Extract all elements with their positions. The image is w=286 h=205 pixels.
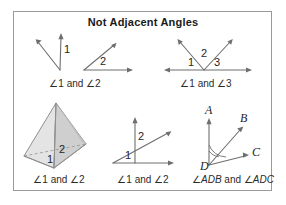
caption-top-right: ∠1 and ∠3 (158, 78, 254, 89)
arrowhead-A (206, 118, 211, 124)
angle-label-2: 2 (100, 55, 106, 67)
diagram-top-right: 1 2 3 (160, 33, 256, 77)
ray-1b (38, 42, 60, 70)
angle-label-2: 2 (201, 47, 207, 59)
angle-label-1: 1 (125, 149, 131, 161)
point-label-A: A (204, 103, 213, 117)
caption-adb: ADB (201, 174, 222, 185)
caption-bottom-right: ∠ADB and ∠ADC (186, 174, 280, 185)
point-label-C: C (252, 145, 261, 159)
angle-label-2: 2 (138, 130, 144, 142)
caption-bottom-left: ∠1 and ∠2 (14, 174, 104, 185)
caption-top-left: ∠1 and ∠2 (20, 78, 130, 89)
angle-label-3: 3 (214, 56, 220, 68)
ray-1a (60, 36, 61, 70)
ray-DB (209, 130, 240, 165)
ray-2b (84, 45, 114, 70)
diagram-pyramid: 1 2 (18, 98, 94, 172)
diagram-top-left: 1 2 (24, 28, 139, 76)
angle-label-1: 1 (188, 56, 194, 68)
angle-label-1: 1 (47, 153, 53, 165)
arrowhead-upleft-1 (36, 39, 42, 44)
arrowhead-horizontal (168, 160, 174, 165)
diagram-bottom-middle: 1 2 (108, 112, 180, 170)
point-label-B: B (240, 111, 248, 125)
figure-root: Not Adjacent Angles 1 2 ∠1 and ∠2 (0, 0, 286, 205)
arrowhead-right-2 (127, 67, 133, 72)
pyramid-face-right (54, 103, 86, 168)
angle-label-2: 2 (59, 143, 65, 155)
arrowhead-vertical (132, 117, 137, 123)
caption-angle-symbol-1: ∠ (192, 174, 201, 185)
arrowhead-line-left (164, 67, 170, 72)
caption-adc: ADC (253, 174, 274, 185)
ray-DC (209, 156, 245, 165)
caption-bottom-middle: ∠1 and ∠2 (98, 174, 188, 185)
point-label-D: D (199, 159, 209, 173)
arrowhead-C (243, 153, 249, 158)
diagram-bottom-right: A B C D (190, 104, 264, 170)
arrowhead-up-1 (58, 33, 63, 39)
angle-label-1: 1 (64, 43, 70, 55)
arrowhead-upright-2 (111, 43, 116, 48)
arrowhead-line-right (246, 67, 252, 72)
caption-and: and ∠ (222, 174, 253, 185)
figure-title: Not Adjacent Angles (0, 16, 286, 28)
